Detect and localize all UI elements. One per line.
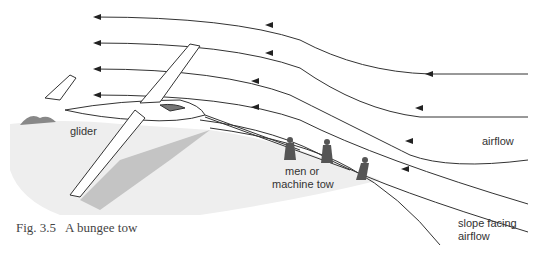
slope-label-line2: airflow bbox=[458, 230, 490, 243]
glider-label: glider bbox=[70, 125, 97, 138]
tow-label-line1: men or bbox=[285, 165, 319, 178]
tow-label-line2: machine tow bbox=[272, 178, 334, 191]
slope-label-line1: slope facing bbox=[458, 217, 517, 230]
airflow-label: airflow bbox=[482, 135, 514, 148]
figure-caption: Fig. 3.5 A bungee tow bbox=[16, 220, 137, 236]
